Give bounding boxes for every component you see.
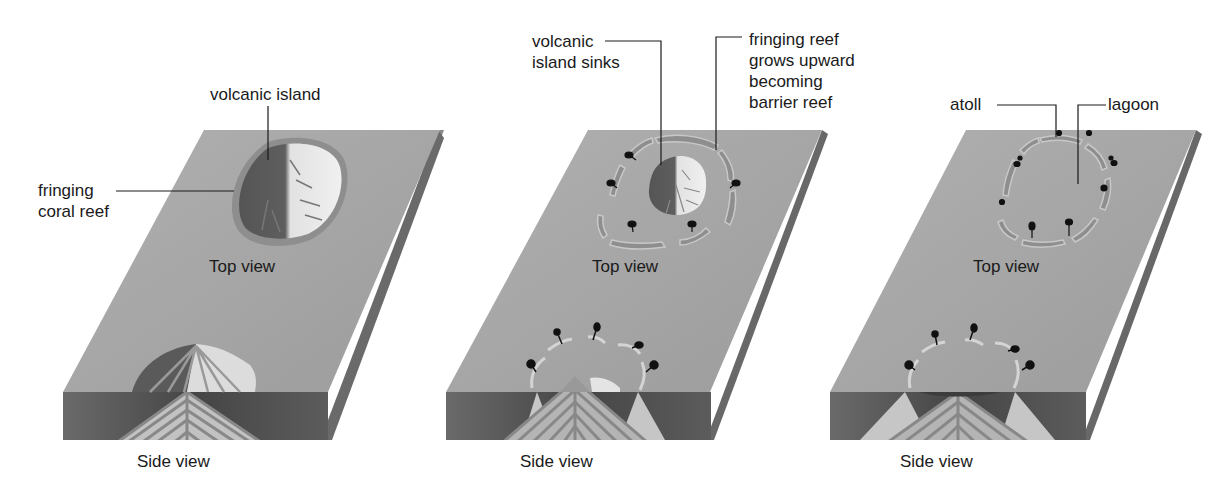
label-line: island sinks: [532, 52, 620, 73]
caption-side-view: Side view: [900, 452, 973, 472]
stage-3-block: [830, 130, 1202, 470]
atoll-formation-diagram: [0, 0, 1226, 490]
caption-side-view: Side view: [137, 452, 210, 472]
stage-2-block: [446, 130, 828, 470]
stage-1-block: [63, 130, 444, 470]
label-atoll: atoll: [950, 94, 981, 115]
label-line: fringing: [38, 180, 109, 201]
label-line: coral reef: [38, 201, 109, 222]
label-line: volcanic: [532, 31, 620, 52]
label-line: grows upward: [749, 50, 855, 71]
caption-top-view: Top view: [209, 257, 275, 277]
label-lagoon: lagoon: [1108, 94, 1159, 115]
label-fringing-coral-reef: fringing coral reef: [38, 180, 109, 222]
caption-top-view: Top view: [973, 257, 1039, 277]
label-line: fringing reef: [749, 29, 855, 50]
label-line: barrier reef: [749, 92, 855, 113]
label-volcanic-island: volcanic island: [210, 84, 321, 105]
caption-top-view: Top view: [592, 257, 658, 277]
label-barrier-reef: fringing reef grows upward becoming barr…: [749, 29, 855, 113]
label-line: becoming: [749, 71, 855, 92]
caption-side-view: Side view: [520, 452, 593, 472]
label-volcanic-island-sinks: volcanic island sinks: [532, 31, 620, 73]
